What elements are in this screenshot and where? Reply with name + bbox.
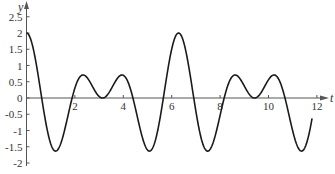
y-tick-label: -1 (13, 125, 22, 137)
x-tick-label: 2 (72, 100, 78, 112)
data-series-line (27, 33, 313, 151)
y-tick-label: 0.5 (9, 76, 23, 88)
y-axis-arrow-icon (24, 1, 29, 9)
x-tick-label: 4 (121, 100, 127, 112)
y-tick-label: 0 (17, 92, 23, 104)
y-axis-label: y (17, 0, 24, 14)
y-tick-label: -0.5 (5, 108, 23, 120)
x-tick-label: 12 (311, 100, 322, 112)
y-tick-label: -1.5 (5, 141, 23, 153)
y-tick-label: 1.5 (9, 43, 23, 55)
y-tick-label: 2 (17, 27, 23, 39)
x-axis-arrow-icon (320, 96, 329, 101)
y-axis-ticks: 2.521.510.50-0.5-1-1.5-2 (5, 11, 29, 169)
x-tick-label: 6 (169, 100, 175, 112)
line-chart: 2.521.510.50-0.5-1-1.5-2 24681012 y t (0, 0, 335, 174)
y-tick-label: 1 (17, 60, 23, 72)
y-tick-label: -2 (13, 157, 22, 169)
x-tick-label: 10 (263, 100, 275, 112)
x-axis-label: t (330, 91, 334, 105)
